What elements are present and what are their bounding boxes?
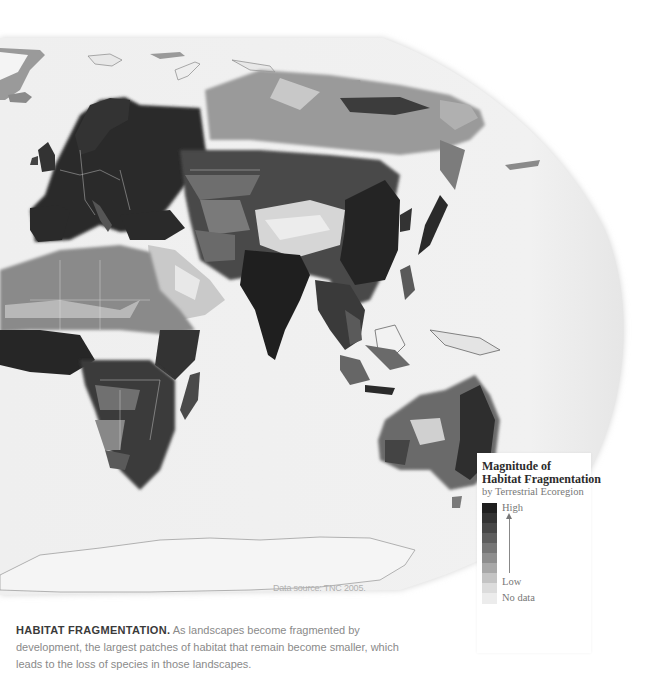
legend-swatch-1: [482, 513, 497, 523]
legend-swatch-2: [482, 523, 497, 533]
legend-title-line1: Magnitude of: [482, 460, 594, 473]
legend-title-line2: Habitat Fragmentation: [482, 473, 594, 486]
legend-swatch-4: [482, 543, 497, 553]
legend-nodata-label: No data: [502, 592, 535, 603]
map-legend: Magnitude of Habitat Fragmentation by Te…: [477, 453, 591, 653]
legend-high-label: High: [502, 502, 523, 513]
legend-title: Magnitude of Habitat Fragmentation: [482, 460, 594, 485]
legend-swatch-6: [482, 563, 497, 573]
legend-swatch-3: [482, 533, 497, 543]
legend-swatch-8: [482, 583, 497, 593]
legend-swatch-7: [482, 573, 497, 583]
legend-color-ramp: [482, 503, 497, 603]
data-source-note: Data source: TNC 2005.: [273, 583, 365, 593]
legend-nodata-swatch: [482, 593, 497, 604]
legend-low-label: Low: [502, 576, 521, 587]
legend-swatch-5: [482, 553, 497, 563]
caption-lead: HABITAT FRAGMENTATION.: [16, 624, 170, 636]
legend-swatch-0: [482, 503, 497, 513]
arrow-up-icon: [509, 517, 510, 573]
figure-caption: HABITAT FRAGMENTATION. As landscapes bec…: [16, 622, 406, 673]
legend-subtitle: by Terrestrial Ecoregion: [482, 486, 584, 497]
